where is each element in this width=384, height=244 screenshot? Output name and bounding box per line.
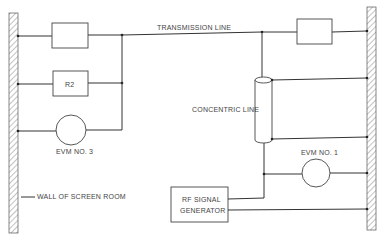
wall-label: WALL OF SCREEN ROOM [37,193,126,200]
r2-label: R2 [65,81,74,88]
resistor-top-left [52,23,88,48]
rf-generator-label-2: GENERATOR [180,207,226,214]
transmission-line-label: TRANSMISSION LINE [157,24,231,31]
resistor-top-right [297,19,332,44]
concentric-line-label: CONCENTRIC LINE [192,106,259,113]
circuit-diagram: TRANSMISSION LINE R2 CONCENTRIC LINE EVM… [0,0,384,244]
evm-1-meter [302,159,330,187]
evm1-label: EVM NO. 1 [301,149,338,156]
rf-signal-generator [171,187,228,222]
top-right-branch [261,19,369,79]
rf-generator-label-1: RF SIGNAL [182,196,221,203]
evm3-label: EVM NO. 3 [56,148,93,155]
evm-3-meter [56,115,86,145]
concentric-line [255,77,368,143]
wall-right [367,7,376,230]
rf-generator-branch [171,187,368,222]
wall-left [9,13,18,233]
